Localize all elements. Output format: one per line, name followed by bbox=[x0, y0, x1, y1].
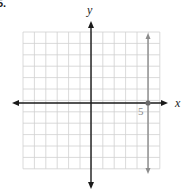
x-axis-left-arrow-icon bbox=[12, 100, 19, 106]
x-axis-label: x bbox=[175, 96, 180, 111]
x-axis-right-arrow-icon bbox=[161, 100, 168, 106]
x-axis bbox=[12, 100, 168, 106]
y-axis-label: y bbox=[87, 3, 92, 18]
line-up-arrow-icon bbox=[146, 33, 151, 39]
y-axis bbox=[88, 21, 94, 189]
point-5-0 bbox=[145, 100, 150, 105]
y-axis-up-arrow-icon bbox=[88, 21, 94, 28]
coordinate-plane bbox=[0, 0, 187, 193]
y-axis-down-arrow-icon bbox=[88, 182, 94, 189]
tick-label-5: 5 bbox=[138, 105, 144, 117]
line-down-arrow-icon bbox=[146, 168, 151, 174]
